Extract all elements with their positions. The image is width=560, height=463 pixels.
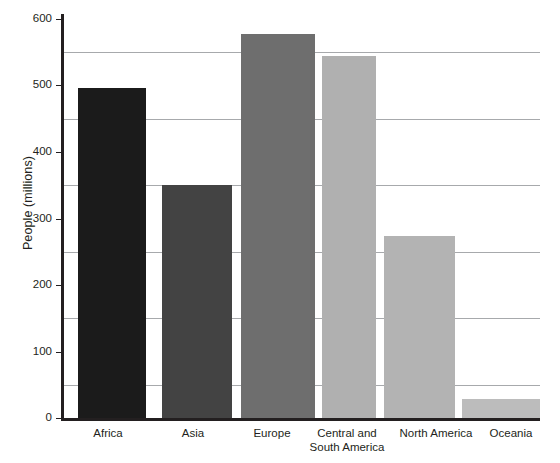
bar-north-america[interactable] <box>384 236 455 418</box>
y-tick-label-100: 100 <box>4 346 52 358</box>
y-tick-200 <box>56 285 62 286</box>
y-tick-label-0: 0 <box>4 412 52 424</box>
category-label-oceania: Oceania <box>468 426 554 440</box>
bar-europe[interactable] <box>241 34 315 418</box>
category-label-africa: Africa <box>60 426 156 440</box>
y-tick-0 <box>56 418 62 419</box>
bar-asia[interactable] <box>162 185 232 418</box>
y-axis-line <box>61 14 64 421</box>
y-tick-500 <box>56 85 62 86</box>
bar-chart: People (millions) 600 500 400 300 <box>0 0 560 463</box>
y-tick-label-500: 500 <box>4 79 52 91</box>
y-tick-label-200: 200 <box>4 279 52 291</box>
category-label-line1: Central and <box>317 427 376 439</box>
y-tick-600 <box>56 19 62 20</box>
bar-central-and-south-america[interactable] <box>322 56 376 418</box>
y-tick-label-600: 600 <box>4 13 52 25</box>
bar-oceania[interactable] <box>462 399 540 418</box>
y-axis-title: People (millions) <box>21 113 35 293</box>
bar-africa[interactable] <box>78 88 146 418</box>
bars-layer <box>64 19 540 418</box>
y-tick-300 <box>56 219 62 220</box>
category-label-central-and-south-america: Central and South America <box>297 426 397 454</box>
y-tick-100 <box>56 352 62 353</box>
y-tick-400 <box>56 152 62 153</box>
y-tick-label-400: 400 <box>4 146 52 158</box>
category-label-line2: South America <box>310 441 385 453</box>
x-axis-line <box>61 418 540 421</box>
y-tick-label-300: 300 <box>4 213 52 225</box>
